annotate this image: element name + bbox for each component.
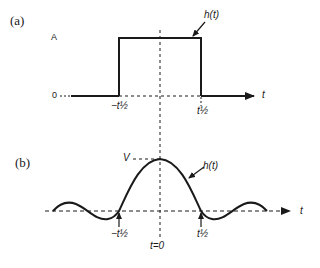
panel-b-label: (b) <box>15 156 30 169</box>
zero-label: 0 <box>52 91 57 100</box>
panel-b-sinc <box>45 159 290 227</box>
amplitude-label: A <box>51 33 57 42</box>
axis-label-b: t <box>300 206 303 216</box>
left-edge-label-a: −t½ <box>111 101 128 111</box>
axis-label-a: t <box>262 90 265 100</box>
center-label: t=0 <box>150 241 164 251</box>
diagram-canvas <box>0 0 320 268</box>
curve-label-b: h(t) <box>203 161 218 171</box>
right-edge-label-a: t½ <box>197 106 208 116</box>
panel-a-pulse <box>60 22 254 106</box>
curve-label-a: h(t) <box>204 10 219 20</box>
left-zero-label-b: −t½ <box>111 229 128 239</box>
right-zero-label-b: t½ <box>197 229 208 239</box>
panel-a-label: (a) <box>10 14 24 27</box>
peak-label: V <box>123 153 130 163</box>
